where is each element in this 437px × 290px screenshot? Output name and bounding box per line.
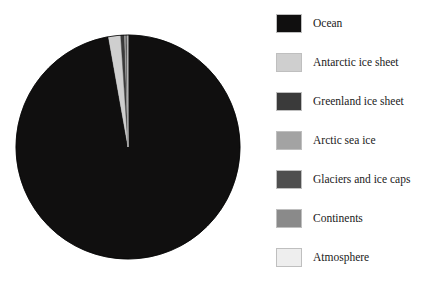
legend-item-label: Arctic sea ice [313, 134, 376, 147]
legend-item-label: Atmosphere [313, 251, 369, 264]
legend-item-label: Continents [313, 212, 363, 225]
legend-item-label: Greenland ice sheet [313, 95, 404, 108]
legend-item[interactable]: Arctic sea ice [276, 126, 376, 154]
legend-swatch-icon [276, 209, 302, 228]
legend-swatch-icon [276, 92, 302, 111]
legend-swatch-icon [276, 53, 302, 72]
legend-item-label: Ocean [313, 17, 342, 30]
legend-item[interactable]: Glaciers and ice caps [276, 165, 410, 193]
legend-swatch-icon [276, 170, 302, 189]
pie-chart-svg [0, 0, 262, 290]
pie-chart-figure: OceanAntarctic ice sheetGreenland ice sh… [0, 0, 437, 290]
pie-chart-plot-area [0, 0, 262, 290]
chart-legend: OceanAntarctic ice sheetGreenland ice sh… [276, 0, 437, 290]
legend-item[interactable]: Continents [276, 204, 363, 232]
legend-swatch-icon [276, 14, 302, 33]
legend-swatch-icon [276, 248, 302, 267]
legend-item[interactable]: Atmosphere [276, 243, 369, 271]
legend-item[interactable]: Antarctic ice sheet [276, 48, 399, 76]
legend-item[interactable]: Greenland ice sheet [276, 87, 404, 115]
legend-item[interactable]: Ocean [276, 9, 342, 37]
legend-item-label: Antarctic ice sheet [313, 56, 399, 69]
legend-item-label: Glaciers and ice caps [313, 173, 410, 186]
legend-swatch-icon [276, 131, 302, 150]
